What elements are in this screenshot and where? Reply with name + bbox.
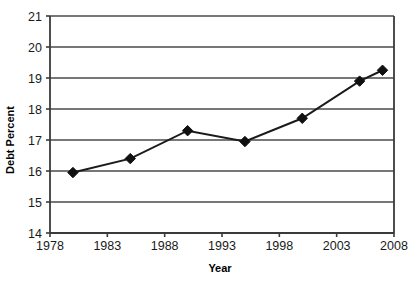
x-tick-label: 1998 [265, 239, 293, 253]
y-tick-label: 18 [28, 103, 42, 117]
y-tick-label: 20 [28, 41, 42, 55]
y-tick-label: 16 [28, 165, 42, 179]
y-tick-label: 19 [28, 72, 42, 86]
x-tick-label: 1983 [93, 239, 121, 253]
line-chart: 1415161718192021 19781983198819931998200… [0, 0, 418, 283]
x-tick-label: 2008 [380, 239, 408, 253]
x-tick-label: 1993 [208, 239, 236, 253]
y-tick-label: 15 [28, 196, 42, 210]
y-tick-label: 17 [28, 134, 42, 148]
x-tick-label: 2003 [323, 239, 351, 253]
x-tick-label: 1988 [151, 239, 179, 253]
y-axis-title: Debt Percent [4, 106, 16, 174]
x-tick-label: 1978 [36, 239, 64, 253]
chart-container: 1415161718192021 19781983198819931998200… [0, 0, 418, 283]
y-tick-label: 21 [28, 10, 42, 24]
x-axis-title: Year [208, 262, 232, 274]
